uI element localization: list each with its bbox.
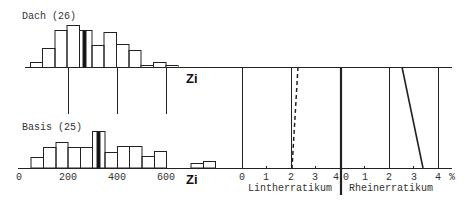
dach-histogram xyxy=(31,26,179,68)
zi-top-label: Zi xyxy=(186,71,198,86)
rhein-ticks: 0 1 2 3 4 % xyxy=(343,172,455,183)
svg-text:0: 0 xyxy=(239,172,245,183)
percent-unit: % xyxy=(449,172,455,183)
svg-text:3: 3 xyxy=(411,172,417,183)
svg-text:0: 0 xyxy=(343,172,349,183)
basis-label: Basis (25) xyxy=(22,122,82,133)
svg-text:1: 1 xyxy=(362,172,368,183)
hist-ticks: 0 200 400 600 xyxy=(16,172,175,183)
linth-line xyxy=(292,67,298,168)
svg-text:3: 3 xyxy=(312,172,318,183)
dach-label: Dach (26) xyxy=(22,11,76,22)
svg-text:200: 200 xyxy=(59,172,77,183)
linth-axis-label: Lintherratikum xyxy=(248,183,332,194)
linth-ticks: 0 1 2 3 4 xyxy=(239,172,339,183)
svg-text:0: 0 xyxy=(16,172,22,183)
svg-text:600: 600 xyxy=(157,172,175,183)
svg-text:400: 400 xyxy=(108,172,126,183)
svg-text:1: 1 xyxy=(263,172,269,183)
svg-text:2: 2 xyxy=(288,172,294,183)
dach-mean-marker xyxy=(83,31,86,68)
zi-bottom-label: Zi xyxy=(186,172,198,187)
basis-histogram xyxy=(31,132,216,169)
svg-text:2: 2 xyxy=(386,172,392,183)
basis-mean-marker xyxy=(97,132,100,169)
rhein-axis-label: Rheinerratikum xyxy=(349,183,433,194)
svg-text:4: 4 xyxy=(435,172,441,183)
chart-canvas: Dach (26) Basis (25) Zi Zi 0 200 400 600… xyxy=(0,0,472,205)
svg-text:4: 4 xyxy=(333,172,339,183)
rhein-line xyxy=(402,67,423,168)
